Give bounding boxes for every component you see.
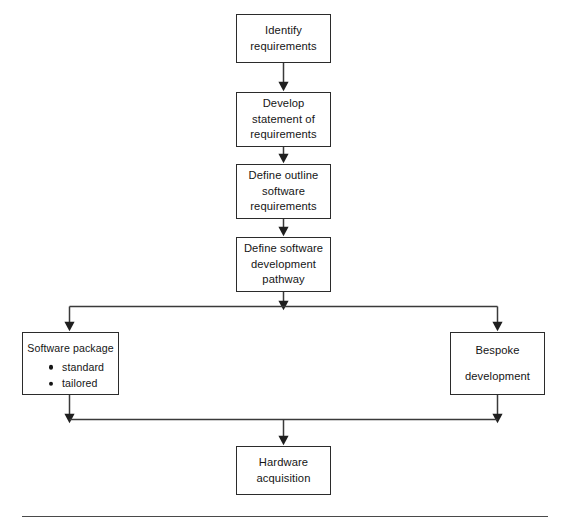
node-bespoke-line-1: Bespoke (475, 343, 519, 359)
node-outline-line-3: requirements (250, 199, 317, 215)
node-software-package-bullet-standard-label: standard (62, 361, 104, 373)
node-develop-statement-of-requirements: Develop statement of requirements (236, 92, 331, 147)
node-define-software-development-pathway: Define software development pathway (236, 237, 331, 292)
node-hardware-line-2: acquisition (257, 471, 311, 487)
footer-horizontal-rule (22, 516, 548, 517)
node-software-package: Software package standard tailored (22, 332, 119, 395)
node-outline-line-2: software (262, 184, 305, 200)
node-identify-line-2: requirements (250, 39, 317, 55)
node-software-package-bullet-tailored-label: tailored (62, 377, 98, 389)
node-bespoke-development: Bespoke development (450, 332, 545, 395)
node-develop-line-3: requirements (250, 127, 317, 143)
node-pathway-line-2: development (251, 257, 316, 273)
node-hardware-line-1: Hardware (259, 455, 308, 471)
bullet-point-icon (49, 381, 53, 385)
node-pathway-line-3: pathway (262, 272, 304, 288)
bullet-point-icon (49, 365, 53, 369)
node-outline-line-1: Define outline (249, 168, 319, 184)
node-hardware-acquisition: Hardware acquisition (236, 446, 331, 495)
node-define-outline-software-requirements: Define outline software requirements (236, 164, 331, 219)
node-identify-line-1: Identify (265, 23, 302, 39)
node-bespoke-line-2: development (465, 369, 530, 385)
node-software-package-bullet-tailored: tailored (49, 375, 118, 391)
node-software-package-bullet-standard: standard (49, 359, 118, 375)
node-software-package-title: Software package (23, 341, 118, 356)
node-software-package-bullet-list: standard tailored (23, 359, 118, 392)
node-develop-line-2: statement of (252, 112, 315, 128)
node-identify-requirements: Identify requirements (236, 14, 331, 63)
node-develop-line-1: Develop (263, 96, 305, 112)
node-pathway-line-1: Define software (244, 241, 323, 257)
